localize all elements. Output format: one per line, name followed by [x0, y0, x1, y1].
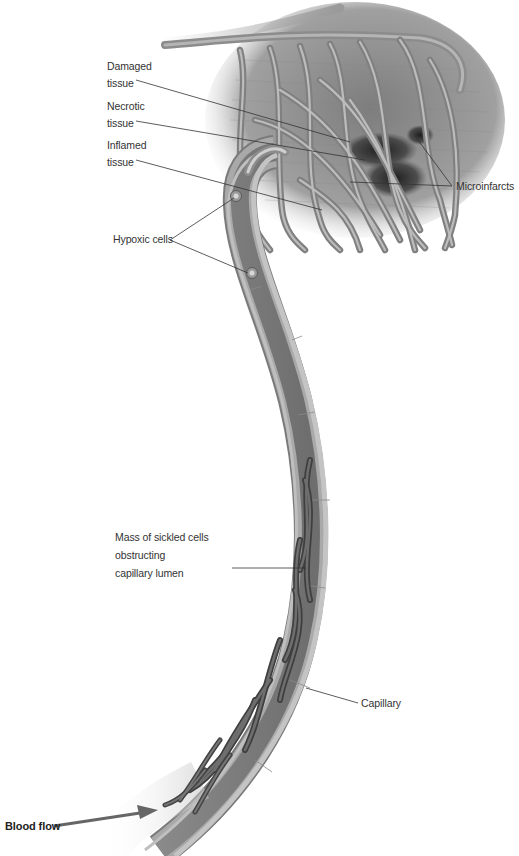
label-inflamed-tissue: Inflamed tissue [107, 137, 146, 171]
label-microinfarcts: Microinfarcts [456, 178, 514, 195]
sickle-cell-capillary-diagram [0, 0, 519, 856]
label-damaged-tissue: Damaged tissue [107, 58, 152, 92]
label-hypoxic-cells: Hypoxic cells [113, 231, 173, 248]
leader-capillary [306, 688, 358, 703]
label-sickled-mass: Mass of sickled cells obstructing capill… [115, 528, 209, 582]
label-blood-flow: Blood flow [5, 818, 60, 835]
label-capillary: Capillary [361, 695, 401, 712]
label-necrotic-tissue: Necrotic tissue [107, 98, 145, 132]
